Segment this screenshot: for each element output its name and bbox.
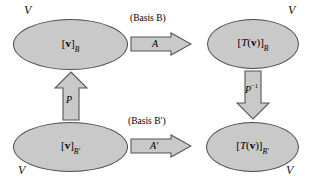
basis-subscript-B-right: B bbox=[264, 44, 269, 53]
space-label-top-left: V bbox=[24, 3, 31, 18]
space-label-top-right: V bbox=[288, 3, 295, 18]
image-coordinate-label-B: [T(v)]B bbox=[208, 37, 298, 51]
vector-space-top-right: [T(v)]B bbox=[207, 19, 299, 69]
arrow-P-label: P bbox=[66, 94, 72, 105]
arrow-P-inverse-exponent: −1 bbox=[251, 82, 258, 89]
arrow-A-prime-label-text: A′ bbox=[150, 140, 158, 151]
space-label-bottom-right: V bbox=[286, 163, 293, 178]
basis-subscript-B: B bbox=[75, 45, 80, 54]
arrow-A-label: A bbox=[152, 38, 158, 49]
basis-subscript-Bprime-right: B′ bbox=[263, 147, 269, 156]
basis-subscript-Bprime: B′ bbox=[74, 147, 80, 156]
arrow-A-prime bbox=[130, 134, 192, 158]
basis-annotation-bottom: (Basis B′) bbox=[128, 116, 166, 126]
arrow-P-inverse-label: P−1 bbox=[245, 83, 258, 95]
vector-coordinate-label-Bprime: [v]B′ bbox=[14, 140, 127, 154]
basis-annotation-bottom-text: (Basis B′) bbox=[128, 116, 166, 126]
vector-coordinate-label-B: [v]B bbox=[14, 38, 127, 52]
diagram-canvas: V [v]B V [T(v)]B [v]B′ V [T(v)]B′ V (Bas… bbox=[0, 0, 312, 184]
basis-annotation-top: (Basis B) bbox=[130, 13, 166, 23]
arrow-A-label-text: A bbox=[152, 38, 158, 49]
image-coordinate-label-Bprime: [T(v)]B′ bbox=[207, 140, 298, 154]
arrow-A-prime-label: A′ bbox=[150, 140, 158, 151]
basis-annotation-top-text: (Basis B) bbox=[130, 13, 166, 23]
vector-space-top-left: [v]B bbox=[13, 19, 128, 70]
vector-space-bottom-left: [v]B′ bbox=[13, 122, 128, 172]
space-label-bottom-left: V bbox=[18, 163, 25, 178]
arrow-A bbox=[130, 32, 192, 56]
arrow-P-label-text: P bbox=[66, 94, 72, 105]
